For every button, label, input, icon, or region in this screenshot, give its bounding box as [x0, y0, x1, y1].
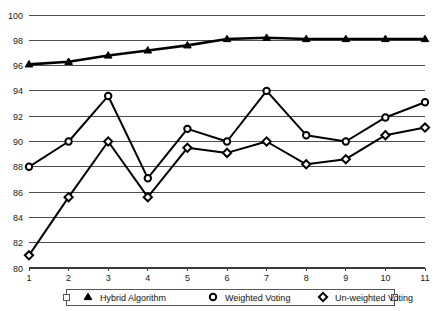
y-axis-tick-label: 96	[13, 61, 23, 71]
data-point-marker	[263, 137, 271, 145]
series-line	[29, 128, 425, 256]
legend-item-label: Weighted Voting	[225, 293, 290, 303]
y-axis-tick-label: 98	[13, 36, 23, 46]
y-axis-tick-label: 86	[13, 188, 23, 198]
y-axis-tick-label: 88	[13, 162, 23, 172]
data-point-marker	[263, 88, 269, 94]
y-axis-tick-label: 100	[8, 11, 23, 21]
data-point-marker	[421, 123, 429, 131]
series-line	[29, 91, 425, 178]
x-axis-tick-label: 7	[264, 273, 269, 283]
chart-container: 100989694929088868482801234567891011Hybr…	[0, 0, 437, 311]
y-axis-tick-label: 80	[13, 264, 23, 274]
x-axis-tick-label: 1	[26, 273, 31, 283]
data-point-marker	[210, 294, 216, 300]
x-axis-labels: 1234567891011	[26, 273, 429, 283]
data-point-marker	[65, 138, 71, 144]
data-point-marker	[145, 175, 151, 181]
legend-item-label: Hybrid Algorithm	[100, 293, 166, 303]
data-point-marker	[105, 93, 111, 99]
data-point-marker	[343, 138, 349, 144]
y-axis-tick-label: 90	[13, 137, 23, 147]
legend-item-label: Un-weighted Voting	[335, 293, 413, 303]
data-point-marker	[224, 138, 230, 144]
y-axis-tick-label: 82	[13, 238, 23, 248]
legend-resize-handle-left[interactable]	[63, 294, 69, 300]
y-axis-tick-label: 94	[13, 86, 23, 96]
y-axis-labels: 10098969492908886848280	[8, 11, 23, 274]
x-axis-tick-label: 8	[304, 273, 309, 283]
data-point-marker	[422, 99, 428, 105]
x-axis-tick-label: 6	[224, 273, 229, 283]
series-weighted-voting	[26, 88, 428, 182]
y-axis-tick-label: 92	[13, 112, 23, 122]
y-axis-tick-label: 84	[13, 213, 23, 223]
x-axis-tick-label: 5	[185, 273, 190, 283]
x-axis-tick-label: 10	[380, 273, 390, 283]
x-axis-tick-label: 3	[106, 273, 111, 283]
data-point-marker	[303, 132, 309, 138]
x-axis-tick-label: 2	[66, 273, 71, 283]
x-axis-tick-label: 11	[420, 273, 429, 283]
line-chart: 100989694929088868482801234567891011Hybr…	[0, 0, 437, 311]
data-point-marker	[26, 164, 32, 170]
data-point-marker	[223, 149, 231, 157]
x-axis-tick-label: 4	[145, 273, 150, 283]
x-axis-tick-label: 9	[343, 273, 348, 283]
chart-legend: Hybrid AlgorithmWeighted VotingUn-weight…	[63, 289, 413, 305]
data-point-marker	[382, 114, 388, 120]
data-point-marker	[184, 126, 190, 132]
series-hybrid-algorithm	[25, 34, 429, 67]
